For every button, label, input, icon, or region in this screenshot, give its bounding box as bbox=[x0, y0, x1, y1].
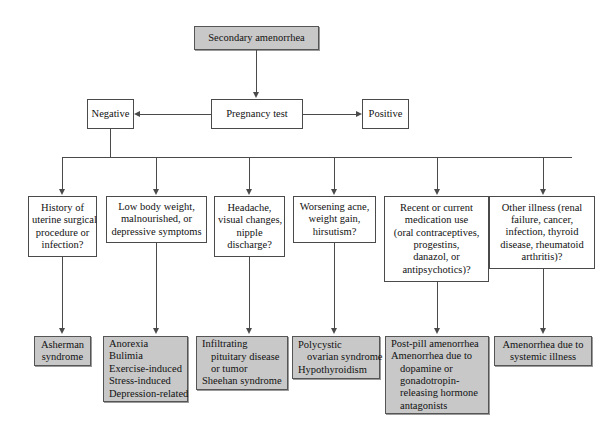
arrowhead-q4 bbox=[331, 189, 337, 195]
bus-drop-q3 bbox=[249, 157, 250, 190]
connector-decision-to-negative bbox=[140, 114, 211, 115]
distribution-bus bbox=[62, 157, 572, 158]
diagnosis-line: Amenorrhea due to bbox=[498, 339, 588, 351]
question-line: failure, cancer, bbox=[493, 214, 591, 226]
question-line: danazol, or bbox=[388, 251, 485, 263]
arrowhead-d5 bbox=[434, 328, 440, 334]
diagnosis-box-systemic-illness: Amenorrhea due to systemic illness bbox=[494, 336, 592, 366]
question-line: History of bbox=[32, 202, 93, 214]
node-positive: Positive bbox=[362, 99, 409, 129]
question-line: progestins, bbox=[388, 239, 485, 251]
node-label: Negative bbox=[91, 108, 130, 120]
diagnosis-line: Polycystic bbox=[298, 339, 376, 351]
arrowhead-q5 bbox=[434, 189, 440, 195]
diagnosis-line: dopamine or bbox=[391, 363, 485, 375]
connector-decision-to-positive bbox=[303, 114, 356, 115]
question-line: infection? bbox=[32, 239, 93, 251]
node-pregnancy-test: Pregnancy test bbox=[211, 99, 303, 129]
node-secondary-amenorrhea: Secondary amenorrhea bbox=[194, 26, 319, 50]
diagnosis-line: Post-pill amenorrhea bbox=[391, 338, 485, 350]
arrowhead-q6 bbox=[540, 189, 546, 195]
arrowhead-q2 bbox=[153, 189, 159, 195]
diagnosis-line: Exercise-induced bbox=[109, 363, 184, 375]
question-line: Recent or current bbox=[388, 202, 485, 214]
question-line: discharge? bbox=[218, 239, 281, 251]
question-box-worsening-acne: Worsening acne, weight gain, hirsutism? bbox=[293, 196, 376, 243]
node-label: Secondary amenorrhea bbox=[198, 32, 315, 44]
diagnosis-box-asherman-syndrome: Asherman syndrome bbox=[34, 336, 91, 366]
question-box-history-uterine-procedure: History of uterine surgical procedure or… bbox=[28, 196, 97, 257]
question-line: uterine surgical bbox=[32, 214, 93, 226]
question-box-headache-visual-changes: Headache, visual changes, nipple dischar… bbox=[214, 196, 285, 257]
question-box-other-illness: Other illness (renal failure, cancer, in… bbox=[489, 196, 595, 269]
connector-q1-to-d1 bbox=[62, 257, 63, 329]
question-line: malnourished, or bbox=[110, 213, 203, 225]
question-line: arthritis)? bbox=[493, 251, 591, 263]
diagnosis-line: ovarian syndrome bbox=[298, 351, 376, 363]
question-line: nipple bbox=[218, 227, 281, 239]
diagnosis-line: Sheehan syndrome bbox=[202, 375, 284, 387]
diagnosis-line: or tumor bbox=[202, 363, 284, 375]
connector-q4-to-d4 bbox=[334, 243, 335, 329]
question-line: Low body weight, bbox=[110, 201, 203, 213]
arrowhead-q1 bbox=[59, 189, 65, 195]
diagnosis-line: Amenorrhea due to bbox=[391, 350, 485, 362]
node-label: Positive bbox=[366, 108, 405, 120]
bus-drop-q1 bbox=[62, 157, 63, 190]
arrowhead-root-to-decision bbox=[253, 92, 259, 98]
diagnosis-line: gonadotropin- bbox=[391, 375, 485, 387]
bus-drop-q4 bbox=[334, 157, 335, 190]
arrowhead-d1 bbox=[59, 328, 65, 334]
connector-q3-to-d3 bbox=[249, 257, 250, 329]
arrowhead-d6 bbox=[540, 328, 546, 334]
arrowhead-d3 bbox=[246, 328, 252, 334]
arrowhead-d4 bbox=[331, 328, 337, 334]
node-negative: Negative bbox=[87, 99, 134, 129]
question-line: Worsening acne, bbox=[297, 201, 372, 213]
diagnosis-box-pituitary-disease: Infiltrating pituitary disease or tumor … bbox=[196, 336, 288, 390]
question-line: antipsychotics)? bbox=[388, 264, 485, 276]
diagnosis-line: systemic illness bbox=[498, 351, 588, 363]
arrowhead-q3 bbox=[246, 189, 252, 195]
connector-q6-to-d6 bbox=[543, 269, 544, 329]
question-line: (oral contraceptives, bbox=[388, 227, 485, 239]
connector-q5-to-d5 bbox=[437, 282, 438, 329]
diagnosis-box-pcos-hypothyroidism: Polycystic ovarian syndrome Hypothyroidi… bbox=[292, 336, 380, 379]
diagnosis-line: Anorexia bbox=[109, 338, 184, 350]
diagnosis-line: antagonists bbox=[391, 400, 485, 412]
connector-q2-to-d2 bbox=[156, 243, 157, 329]
diagnosis-box-eating-and-mood-disorders: Anorexia Bulimia Exercise-induced Stress… bbox=[103, 336, 188, 402]
question-line: visual changes, bbox=[218, 214, 281, 226]
arrowhead-to-negative bbox=[134, 111, 140, 117]
question-line: Headache, bbox=[218, 202, 281, 214]
diagnosis-line: pituitary disease bbox=[202, 351, 284, 363]
question-line: Other illness (renal bbox=[493, 202, 591, 214]
question-line: hirsutism? bbox=[297, 226, 372, 238]
diagnosis-line: Depression-related bbox=[109, 388, 184, 400]
question-box-recent-medication-use: Recent or current medication use (oral c… bbox=[384, 196, 489, 282]
question-line: infection, thyroid bbox=[493, 226, 591, 238]
diagnosis-line: releasing hormone bbox=[391, 387, 485, 399]
diagnosis-line: Infiltrating bbox=[202, 338, 284, 350]
question-line: disease, rheumatoid bbox=[493, 239, 591, 251]
diagnosis-box-post-pill-amenorrhea: Post-pill amenorrhea Amenorrhea due to d… bbox=[385, 336, 489, 414]
bus-drop-q5 bbox=[437, 157, 438, 190]
bus-drop-q2 bbox=[156, 157, 157, 190]
bus-drop-q6 bbox=[543, 157, 544, 190]
question-line: depressive symptoms bbox=[110, 226, 203, 238]
question-box-low-body-weight: Low body weight, malnourished, or depres… bbox=[106, 196, 207, 243]
diagnosis-line: Hypothyroidism bbox=[298, 364, 376, 376]
arrowhead-d2 bbox=[153, 328, 159, 334]
question-line: medication use bbox=[388, 214, 485, 226]
diagnosis-line: Stress-induced bbox=[109, 375, 184, 387]
question-line: procedure or bbox=[32, 227, 93, 239]
diagnosis-line: syndrome bbox=[38, 351, 87, 363]
diagnosis-line: Asherman bbox=[38, 339, 87, 351]
question-line: weight gain, bbox=[297, 213, 372, 225]
connector-negative-to-bus bbox=[110, 129, 111, 157]
diagnosis-line: Bulimia bbox=[109, 350, 184, 362]
connector-root-to-decision bbox=[256, 50, 257, 93]
flowchart-canvas: Secondary amenorrhea Pregnancy test Nega… bbox=[0, 0, 609, 439]
node-label: Pregnancy test bbox=[215, 108, 299, 120]
